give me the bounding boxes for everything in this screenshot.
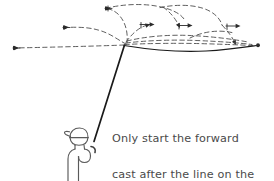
angler-stick-figure bbox=[65, 128, 96, 181]
head-lower bbox=[70, 138, 88, 146]
dashed-path-second-arch-right bbox=[160, 5, 222, 25]
arm-to-grip bbox=[79, 149, 91, 163]
dashed-path-lowest-left bbox=[14, 45, 124, 48]
neck-right bbox=[84, 145, 85, 149]
shoulders-torso bbox=[68, 149, 75, 181]
back-cast-dashed-paths bbox=[14, 5, 254, 48]
dashed-path-upper-left-arch bbox=[106, 8, 127, 43]
dashed-path-horizontal-lower bbox=[125, 43, 254, 45]
cap-crown-icon bbox=[70, 128, 88, 138]
fly-line-on-water bbox=[124, 45, 258, 51]
directional-arrowheads bbox=[13, 6, 236, 48]
caption-line-1: Only start the forward bbox=[112, 130, 272, 148]
cap-brim-icon bbox=[65, 131, 71, 136]
rod-grip bbox=[91, 147, 95, 153]
dashed-path-upper-arch bbox=[106, 5, 184, 19]
dashed-path-mid-left bbox=[64, 27, 126, 44]
caption-line-2: cast after the line on the bbox=[112, 166, 272, 181]
instruction-caption: Only start the forward cast after the li… bbox=[112, 112, 272, 181]
dashed-path-from-tip-to-mid-arrow bbox=[126, 26, 146, 43]
